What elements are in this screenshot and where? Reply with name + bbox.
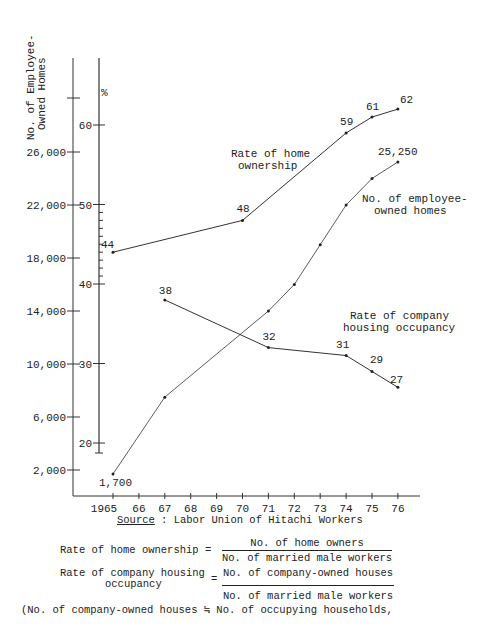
data-point — [345, 354, 348, 357]
data-point — [371, 177, 374, 180]
label-company-occupancy: Rate of company housing occupancy — [343, 310, 456, 334]
left-tick-label: 6,000 — [33, 412, 66, 424]
percent-sign: % — [101, 87, 108, 99]
svg-text:Rate of home: Rate of home — [231, 148, 310, 160]
formula-3-note: (No. of company-owned houses ≒ No. of oc… — [21, 603, 393, 616]
left-tick-label: 18,000 — [26, 253, 66, 265]
right-tick-label: 30 — [79, 359, 92, 371]
right-axis-ticks: 6050403020 — [79, 120, 105, 450]
data-point — [371, 370, 374, 373]
data-point — [319, 243, 322, 246]
formula-2-label-line2: occupancy — [105, 578, 162, 590]
svg-text:owned homes: owned homes — [374, 205, 447, 217]
data-label: 31 — [336, 339, 350, 351]
x-tick-label: 76 — [391, 503, 404, 515]
data-label: 44 — [101, 239, 115, 251]
data-point — [396, 108, 399, 111]
label-home-ownership: Rate of home ownership — [231, 148, 310, 172]
right-tick-label: 40 — [79, 279, 92, 291]
data-point — [345, 204, 348, 207]
data-label: 61 — [366, 101, 380, 113]
data-label: 27 — [390, 374, 403, 386]
x-tick-label: 1965 — [91, 503, 117, 515]
series-line — [113, 109, 398, 252]
data-point — [267, 346, 270, 349]
formula-1-label: Rate of home ownership = — [60, 544, 211, 556]
data-point — [112, 472, 115, 475]
data-label: 32 — [262, 331, 275, 343]
data-label: 29 — [370, 354, 383, 366]
data-label: 48 — [237, 203, 250, 215]
data-point — [345, 131, 348, 134]
data-point — [163, 396, 166, 399]
data-label: 1,700 — [99, 477, 132, 489]
data-point — [163, 298, 166, 301]
svg-text:Rate of company: Rate of company — [350, 310, 449, 322]
left-tick-label: 22,000 — [26, 200, 66, 212]
right-tick-label: 50 — [79, 200, 92, 212]
left-tick-label: 26,000 — [26, 147, 66, 159]
data-label: 59 — [340, 116, 353, 128]
right-tick-label: 60 — [79, 120, 92, 132]
data-point — [293, 283, 296, 286]
data-label: 38 — [159, 285, 172, 297]
left-tick-label: 2,000 — [33, 465, 66, 477]
source-note: Source : Labor Union of Hitachi Workers — [117, 514, 363, 526]
data-point — [396, 160, 399, 163]
label-employee-homes: No. of employee- owned homes — [362, 193, 468, 217]
svg-text:ownership: ownership — [238, 160, 297, 172]
left-axis-ticks: 26,00022,00018,00014,00010,0006,0002,000 — [26, 98, 80, 477]
data-label: 25,250 — [378, 146, 418, 158]
formula-2-equals: = — [211, 573, 217, 585]
left-tick-label: 14,000 — [26, 306, 66, 318]
formula-2-fraction: No. of company-owned houses No. of marri… — [222, 567, 394, 602]
right-tick-label: 20 — [79, 438, 92, 450]
data-point — [371, 116, 374, 119]
left-axis-title: No. of Employee- Owned Homes — [25, 34, 48, 140]
data-point — [267, 310, 270, 313]
formula-1-fraction: No. of home owners No. of married male w… — [222, 537, 392, 564]
svg-text:housing occupancy: housing occupancy — [343, 322, 456, 334]
svg-text:Owned Homes: Owned Homes — [36, 57, 48, 130]
data-label: 62 — [400, 94, 413, 106]
x-tick-label: 75 — [365, 503, 378, 515]
data-point — [241, 219, 244, 222]
left-tick-label: 10,000 — [26, 359, 66, 371]
svg-text:No. of employee-: No. of employee- — [362, 193, 468, 205]
